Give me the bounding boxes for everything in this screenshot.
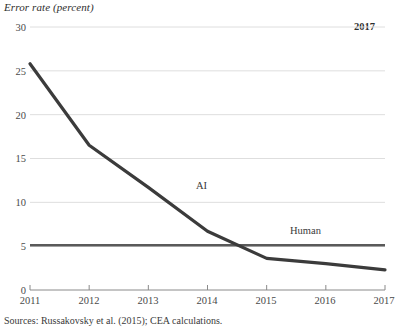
x-axis-ticks-group: [30, 285, 385, 290]
series-line-ai: [30, 64, 385, 270]
